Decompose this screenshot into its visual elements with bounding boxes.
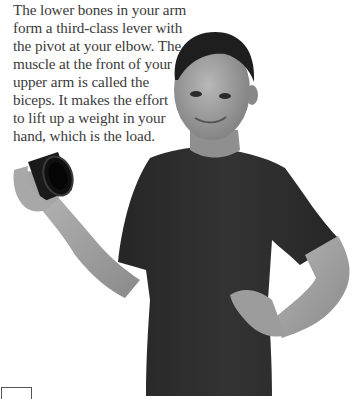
- caption-line: to lift up a weight in your: [13, 109, 175, 127]
- caption-line: the pivot at your elbow. The: [13, 37, 175, 55]
- caption-text: The lower bones in your arm form a third…: [13, 1, 175, 145]
- left-arm: [17, 170, 140, 298]
- caption-line: muscle at the front of your: [13, 55, 175, 73]
- caption-line: upper arm is called the: [13, 73, 175, 91]
- head: [174, 32, 258, 140]
- caption-line: biceps. It makes the effort: [13, 91, 175, 109]
- page-corner-box: [1, 387, 32, 399]
- t-shirt: [118, 147, 340, 396]
- caption-line: hand, which is the load.: [13, 127, 175, 145]
- caption-line: form a third-class lever with: [13, 19, 175, 37]
- caption-line: The lower bones in your arm: [13, 1, 175, 19]
